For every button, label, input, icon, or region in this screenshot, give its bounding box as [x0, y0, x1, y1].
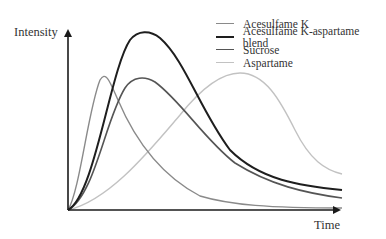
legend-swatch-icon	[216, 62, 234, 63]
series-aspartame	[68, 73, 342, 210]
legend-label: Aspartame	[243, 57, 293, 69]
legend-swatch-icon	[216, 23, 234, 24]
legend-swatch-icon	[216, 49, 234, 50]
legend-label: Sucrose	[243, 44, 279, 56]
legend-item: Acesulfame K-aspartame blend	[216, 30, 386, 43]
legend-swatch-icon	[216, 36, 234, 38]
y-axis-label: Intensity	[14, 25, 58, 40]
legend: Acesulfame K Acesulfame K-aspartame blen…	[216, 17, 386, 69]
legend-item: Aspartame	[216, 56, 386, 69]
x-axis-label: Time	[314, 218, 340, 233]
